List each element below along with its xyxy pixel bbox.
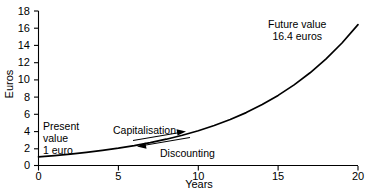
x-tick-label-15: 15 [266, 171, 290, 182]
future-value-annotation: Future value 16.4 euros [268, 18, 326, 42]
x-tick-label-20: 20 [346, 171, 365, 182]
x-axis-title: Years [164, 178, 234, 190]
y-tick-label-0: 0 [8, 160, 30, 171]
y-axis-title: Euros [3, 62, 15, 106]
compound-value-curve [39, 25, 359, 157]
y-tick-label-4: 4 [8, 126, 30, 137]
present-value-line-1: Present [43, 120, 79, 132]
x-tick-label-5: 5 [106, 171, 130, 182]
present-value-line-2: value [43, 132, 79, 144]
y-tick-label-16: 16 [8, 23, 30, 34]
x-tick-label-0: 0 [27, 171, 51, 182]
discounting-label: Discounting [160, 147, 215, 159]
capitalisation-label: Capitalisation [113, 124, 176, 136]
y-axis-ticks [34, 11, 39, 166]
y-tick-label-18: 18 [8, 6, 30, 17]
y-tick-label-14: 14 [8, 40, 30, 51]
future-value-line-1: Future value [268, 18, 326, 30]
present-value-line-3: 1 euro [43, 144, 79, 156]
y-tick-label-6: 6 [8, 109, 30, 120]
present-value-annotation: Present value 1 euro [43, 120, 79, 156]
future-value-line-2: 16.4 euros [268, 30, 326, 42]
exponential-growth-chart: 18 16 14 12 10 8 6 4 2 0 0 5 10 15 20 Eu… [0, 0, 365, 194]
y-tick-label-2: 2 [8, 143, 30, 154]
